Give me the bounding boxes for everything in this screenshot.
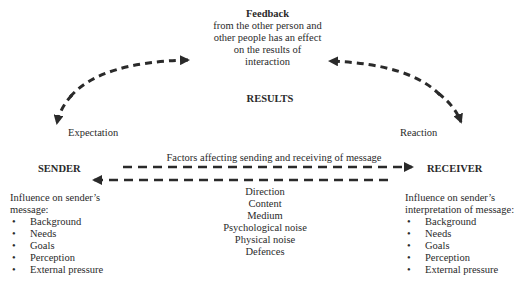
expectation-feedback-arc <box>70 60 188 97</box>
bullet-icon: • <box>12 240 16 252</box>
feedback-title: Feedback <box>180 8 355 20</box>
receiver-influence-heading: interpretation of message: <box>405 204 532 216</box>
factor-item: Medium <box>200 210 330 222</box>
feedback-line: other people has an effect <box>180 32 355 44</box>
factor-item: Content <box>200 198 330 210</box>
factor-item: Direction <box>200 186 330 198</box>
bullet-icon: • <box>12 252 16 264</box>
reaction-arc-lower <box>438 93 461 122</box>
list-item: •Goals <box>405 240 532 252</box>
receiver-influence-list: •Background •Needs •Goals •Perception •E… <box>405 216 532 276</box>
list-item: •Perception <box>405 252 532 264</box>
list-item: •Background <box>10 216 140 228</box>
factor-item: Defences <box>200 246 330 258</box>
list-item: •Goals <box>10 240 140 252</box>
results-label: RESULTS <box>230 93 310 105</box>
sender-influence-heading: Influence on sender’s <box>10 192 140 204</box>
list-item: •External pressure <box>10 264 140 276</box>
bullet-icon: • <box>12 228 16 240</box>
sender-influence-heading: message: <box>10 204 140 216</box>
factor-item: Psychological noise <box>200 222 330 234</box>
list-item: •Needs <box>405 228 532 240</box>
bullet-icon: • <box>12 264 16 276</box>
expectation-arc-lower <box>57 95 72 123</box>
sender-title: SENDER <box>38 163 81 175</box>
receiver-influence-heading: Influence on sender’s <box>405 192 532 204</box>
bullet-icon: • <box>407 252 411 264</box>
list-item: •External pressure <box>405 264 532 276</box>
sender-influence-block: Influence on sender’s message: •Backgrou… <box>10 192 140 276</box>
receiver-influence-block: Influence on sender’s interpretation of … <box>405 192 532 276</box>
feedback-block: Feedback from the other person and other… <box>180 8 355 68</box>
list-item: •Perception <box>10 252 140 264</box>
bullet-icon: • <box>12 216 16 228</box>
factors-title: Factors affecting sending and receiving … <box>140 152 408 164</box>
bullet-icon: • <box>407 216 411 228</box>
list-item: •Background <box>405 216 532 228</box>
sender-influence-list: •Background •Needs •Goals •Perception •E… <box>10 216 140 276</box>
factors-list: Direction Content Medium Psychological n… <box>200 186 330 258</box>
feedback-line: interaction <box>180 56 355 68</box>
reaction-label: Reaction <box>400 127 437 139</box>
expectation-label: Expectation <box>68 127 118 139</box>
bullet-icon: • <box>407 264 411 276</box>
bullet-icon: • <box>407 228 411 240</box>
feedback-line: from the other person and <box>180 20 355 32</box>
list-item: •Needs <box>10 228 140 240</box>
feedback-line: on the results of <box>180 44 355 56</box>
receiver-title: RECEIVER <box>427 163 482 175</box>
bullet-icon: • <box>407 240 411 252</box>
factor-item: Physical noise <box>200 234 330 246</box>
